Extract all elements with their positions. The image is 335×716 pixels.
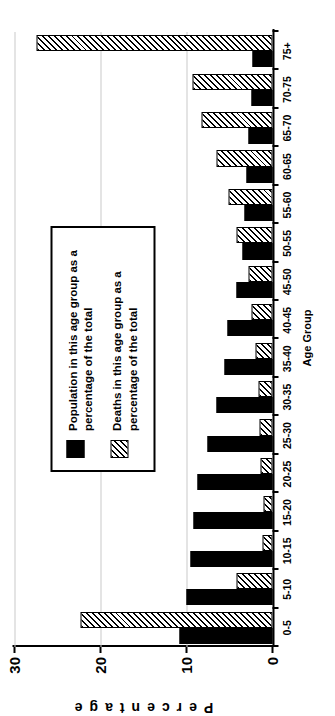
bar-population	[246, 167, 272, 183]
bar-population	[248, 128, 272, 144]
bar-population	[242, 243, 272, 259]
legend-item-deaths: Deaths in this age group as a percentage…	[109, 240, 139, 458]
x-tick	[272, 530, 278, 532]
x-tick-label-25-30: 25-30	[281, 422, 292, 449]
plot-area: 0102030 0-55-1010-1515-2020-2525-3030-35…	[14, 32, 272, 647]
bar-deaths	[263, 496, 272, 512]
bar-group	[14, 147, 272, 185]
bar-group	[14, 609, 272, 647]
x-tick	[272, 568, 278, 570]
bar-population	[186, 589, 272, 605]
bar-deaths	[36, 35, 273, 51]
bar-deaths	[262, 535, 272, 551]
bar-deaths	[260, 458, 272, 474]
y-tick-label-30: 30	[7, 657, 22, 674]
bar-group	[14, 70, 272, 108]
x-tick	[272, 491, 278, 493]
bar-population	[252, 51, 272, 67]
x-tick	[272, 414, 278, 416]
y-tick-20	[99, 647, 101, 653]
x-tick	[272, 222, 278, 224]
y-axis-title: Percentage	[67, 700, 212, 716]
bar-population	[216, 397, 272, 413]
x-tick-label-60-65: 60-65	[281, 153, 292, 180]
bar-deaths	[236, 573, 272, 589]
bar-population	[190, 551, 272, 567]
bar-deaths	[255, 343, 272, 359]
bar-population	[224, 359, 272, 375]
x-tick-label-70-75: 70-75	[281, 76, 292, 103]
x-axis-title: Age Group	[300, 29, 312, 647]
bar-group	[14, 493, 272, 531]
x-tick-label-20-25: 20-25	[281, 461, 292, 488]
bar-deaths	[248, 266, 272, 282]
x-tick-label-30-35: 30-35	[281, 384, 292, 411]
bar-group	[14, 186, 272, 224]
x-tick	[272, 145, 278, 147]
y-tick-0	[271, 647, 273, 653]
legend-swatch-deaths	[110, 440, 128, 458]
bar-deaths	[251, 304, 272, 320]
x-tick	[272, 338, 278, 340]
x-tick-label-50-55: 50-55	[281, 230, 292, 257]
bar-population	[244, 205, 272, 221]
bar-population	[236, 282, 272, 298]
x-tick	[272, 107, 278, 109]
bar-deaths	[259, 419, 272, 435]
x-tick-label-5-10: 5-10	[281, 579, 292, 600]
y-tick-label-0: 0	[265, 657, 280, 665]
x-tick-label-0-5: 0-5	[281, 620, 292, 635]
x-tick	[272, 376, 278, 378]
x-tick	[272, 607, 278, 609]
bar-population	[179, 628, 272, 644]
bar-deaths	[258, 381, 272, 397]
bar-group	[14, 32, 272, 70]
x-tick-label-10-15: 10-15	[281, 537, 292, 564]
bar-group	[14, 109, 272, 147]
x-tick-label-15-20: 15-20	[281, 499, 292, 526]
bar-population	[227, 320, 272, 336]
bar-deaths	[80, 612, 272, 628]
chart-legend: Population in this age group as a percen…	[50, 226, 155, 472]
bar-deaths	[216, 150, 272, 166]
legend-label-deaths: Deaths in this age group as a percentage…	[109, 240, 139, 431]
x-tick-label-35-40: 35-40	[281, 345, 292, 372]
bar-group	[14, 532, 272, 570]
x-tick-label-45-50: 45-50	[281, 268, 292, 295]
y-tick-label-10: 10	[179, 657, 194, 674]
bar-group	[14, 570, 272, 608]
x-tick	[272, 68, 278, 70]
legend-label-population: Population in this age group as a percen…	[65, 240, 95, 431]
x-tick-label-40-45: 40-45	[281, 307, 292, 334]
x-tick	[272, 299, 278, 301]
x-tick	[272, 261, 278, 263]
bar-deaths	[192, 74, 272, 90]
x-tick-label-55-60: 55-60	[281, 192, 292, 219]
bar-population	[193, 512, 272, 528]
legend-swatch-population	[66, 440, 84, 458]
bar-population	[251, 90, 273, 106]
x-tick-label-65-70: 65-70	[281, 115, 292, 142]
x-tick	[272, 453, 278, 455]
y-tick-label-20: 20	[93, 657, 108, 674]
bar-deaths	[228, 189, 272, 205]
bar-population	[197, 474, 272, 490]
bar-deaths	[236, 227, 272, 243]
x-tick	[272, 30, 278, 32]
bar-deaths	[201, 112, 272, 128]
bar-population	[207, 436, 272, 452]
y-tick-30	[13, 647, 15, 653]
x-tick	[272, 184, 278, 186]
y-tick-10	[185, 647, 187, 653]
x-tick	[272, 645, 278, 647]
legend-item-population: Population in this age group as a percen…	[65, 240, 95, 458]
x-tick-label-75+: 75+	[281, 42, 292, 60]
